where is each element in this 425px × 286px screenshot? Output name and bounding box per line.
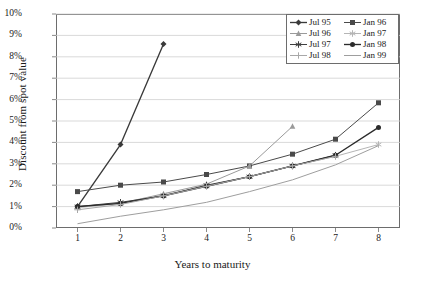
legend-label: Jul 96	[309, 29, 331, 38]
legend-item-jan-98[interactable]: Jan 98	[343, 40, 396, 49]
legend-label: Jul 95	[309, 18, 331, 27]
legend-swatch	[289, 51, 308, 60]
data-point-marker	[246, 173, 252, 179]
x-tick-label: 4	[195, 234, 219, 244]
y-tick-label: 3%	[0, 159, 22, 169]
x-axis-title: Years to maturity	[0, 258, 425, 270]
series-line-jul-97	[78, 155, 336, 206]
data-point-marker	[204, 172, 209, 177]
data-point-marker	[290, 123, 296, 129]
data-point-marker	[376, 125, 381, 130]
data-point-marker	[350, 42, 355, 47]
x-tick-label: 5	[238, 234, 262, 244]
x-tick-label: 8	[367, 234, 391, 244]
y-tick-label: 7%	[0, 73, 22, 83]
x-tick-label: 3	[152, 234, 176, 244]
chart-legend: Jul 95Jan 96Jul 96Jan 97Jul 97Jan 98Jul …	[286, 14, 399, 64]
y-tick-label: 1%	[0, 202, 22, 212]
data-point-marker	[118, 183, 123, 188]
legend-item-jul-95[interactable]: Jul 95	[289, 18, 342, 27]
y-tick-label: 6%	[0, 95, 22, 105]
series-line-jul-95	[78, 44, 164, 207]
legend-swatch	[289, 18, 308, 27]
data-point-marker	[333, 137, 338, 142]
data-point-marker	[161, 179, 166, 184]
legend-label: Jan 96	[363, 18, 386, 27]
x-tick-label: 2	[109, 234, 133, 244]
legend-item-jan-99[interactable]: Jan 99	[343, 51, 396, 60]
y-tick-label: 8%	[0, 52, 22, 62]
series-line-jan-96	[78, 103, 379, 192]
data-point-marker	[290, 152, 295, 157]
chart-container: Discount from spot value 0%1%2%3%4%5%6%7…	[0, 0, 425, 286]
data-point-marker	[350, 20, 355, 25]
legend-label: Jan 99	[363, 51, 386, 60]
data-point-marker	[161, 41, 167, 47]
y-tick-label: 9%	[0, 30, 22, 40]
x-tick-label: 1	[66, 234, 90, 244]
legend-item-jul-98[interactable]: Jul 98	[289, 51, 342, 60]
legend-swatch	[343, 40, 362, 49]
data-point-marker	[376, 100, 381, 105]
legend-label: Jan 97	[363, 29, 386, 38]
y-tick-label: 0%	[0, 223, 22, 233]
legend-swatch	[343, 18, 362, 27]
data-point-marker	[296, 20, 302, 26]
legend-item-jan-96[interactable]: Jan 96	[343, 18, 396, 27]
y-tick-label: 10%	[0, 9, 22, 19]
y-tick-label: 4%	[0, 137, 22, 147]
data-point-marker	[75, 189, 80, 194]
y-tick-label: 2%	[0, 180, 22, 190]
x-tick-label: 7	[324, 234, 348, 244]
legend-label: Jul 97	[309, 40, 331, 49]
legend-swatch	[289, 29, 308, 38]
legend-label: Jan 98	[363, 40, 386, 49]
legend-item-jul-97[interactable]: Jul 97	[289, 40, 342, 49]
series-line-jul-96	[78, 126, 293, 206]
x-tick-label: 6	[281, 234, 305, 244]
legend-swatch	[289, 40, 308, 49]
legend-label: Jul 98	[309, 51, 331, 60]
legend-item-jan-97[interactable]: Jan 97	[343, 29, 396, 38]
legend-item-jul-96[interactable]: Jul 96	[289, 29, 342, 38]
data-point-marker	[295, 52, 301, 58]
legend-swatch	[343, 29, 362, 38]
y-tick-label: 5%	[0, 116, 22, 126]
legend-swatch	[343, 51, 362, 60]
